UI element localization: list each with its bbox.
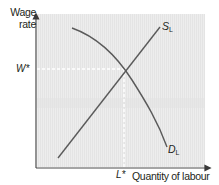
supply-label-main: S [162,20,169,32]
plot-area [37,14,205,167]
demand-label-sub: L [176,149,180,156]
plot-band [37,98,205,108]
y-axis-title-line1: Wage [2,6,36,18]
supply-curve-label: SL [162,20,173,33]
y-axis-title: Wage rate [2,6,36,30]
demand-label-main: D [168,143,176,155]
supply-label-sub: L [169,26,173,33]
y-axis-title-line2: rate [2,18,36,30]
w-star-label: W* [16,63,29,74]
demand-curve-label: DL [168,143,180,156]
labour-market-chart: Wage rate W* L* Quantity of labour SL DL [0,0,219,185]
x-axis-title: Quantity of labour [132,170,209,182]
l-star-label: L* [116,169,125,180]
